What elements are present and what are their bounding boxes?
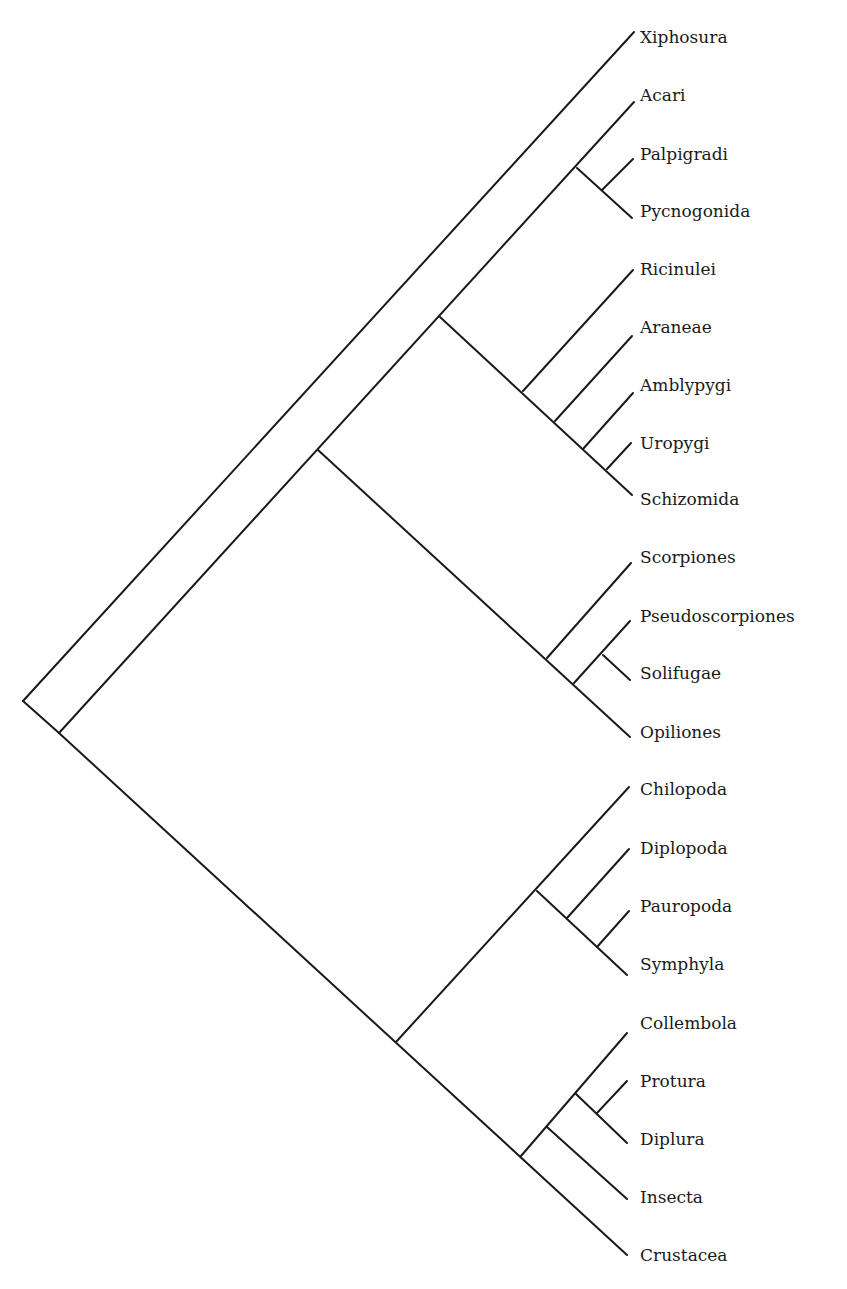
taxon-label-pseudoscorpiones: Pseudoscorpiones <box>640 606 795 626</box>
taxon-label-ricinulei: Ricinulei <box>640 259 716 279</box>
taxon-label-diplopoda: Diplopoda <box>640 838 728 858</box>
cladogram <box>0 0 847 1289</box>
branch-to-insecta <box>547 1127 627 1199</box>
taxon-label-palpigradi: Palpigradi <box>640 144 728 164</box>
branch-to-symphyla <box>537 891 627 975</box>
branch-to-scorpiones <box>547 563 631 658</box>
taxon-label-solifugae: Solifugae <box>640 663 721 683</box>
taxon-label-schizomida: Schizomida <box>640 489 739 509</box>
branch-to-scorpiones-clade <box>318 450 630 737</box>
branch-to-diplopoda <box>567 849 629 918</box>
branch-root-to-ingroup <box>23 701 59 733</box>
branch-to-myriapoda <box>396 787 629 1042</box>
taxon-label-pauropoda: Pauropoda <box>640 896 732 916</box>
taxon-label-scorpiones: Scorpiones <box>640 547 736 567</box>
taxon-label-diplura: Diplura <box>640 1129 705 1149</box>
branch-ingroup-to-mandibulata <box>59 733 627 1255</box>
taxon-label-protura: Protura <box>640 1071 706 1091</box>
branch-to-solifugae <box>603 655 630 680</box>
taxon-label-opiliones: Opiliones <box>640 722 721 742</box>
taxon-label-crustacea: Crustacea <box>640 1245 728 1265</box>
taxon-label-xiphosura: Xiphosura <box>640 27 728 47</box>
taxon-label-uropygi: Uropygi <box>640 433 710 453</box>
taxon-label-insecta: Insecta <box>640 1187 703 1207</box>
taxon-label-chilopoda: Chilopoda <box>640 779 727 799</box>
branch-to-pauropoda <box>597 911 629 947</box>
taxon-label-collembola: Collembola <box>640 1013 737 1033</box>
branch-to-palpigradi <box>602 159 633 190</box>
branch-to-schizomida <box>440 317 632 495</box>
branch-to-protura <box>597 1081 627 1113</box>
taxon-label-amblypygi: Amblypygi <box>640 375 731 395</box>
taxon-label-symphyla: Symphyla <box>640 954 724 974</box>
branch-to-amblypygi <box>583 393 633 449</box>
branch-root-to-xiphosura <box>23 32 634 701</box>
taxon-label-acari: Acari <box>640 85 686 105</box>
branch-to-ricinulei <box>523 270 633 391</box>
branch-to-pycnogonida <box>577 168 632 218</box>
branch-to-pseudo-solifugae <box>574 621 630 683</box>
branch-to-uropygi <box>607 443 631 469</box>
branch-to-diplura <box>576 1094 627 1143</box>
taxon-label-pycnogonida: Pycnogonida <box>640 201 750 221</box>
taxon-label-araneae: Araneae <box>640 317 712 337</box>
branch-to-collembola <box>521 1033 627 1156</box>
